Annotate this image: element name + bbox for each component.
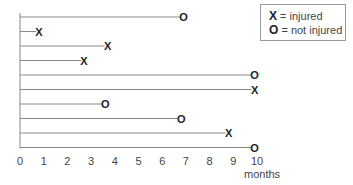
legend-label-injured: = injured [280, 10, 323, 22]
x-tick-label: 8 [207, 155, 213, 167]
timeline-row: O [20, 142, 259, 154]
x-axis-label: months [244, 168, 281, 180]
o-marker-icon: O [179, 11, 188, 23]
timeline-row: X [20, 55, 88, 67]
timeline-row: X [20, 26, 43, 38]
timeline-rows: OXXXOXOOXO [20, 11, 259, 154]
x-marker-icon: X [35, 26, 43, 38]
o-marker-icon: O [250, 69, 259, 81]
x-tick-label: 2 [64, 155, 70, 167]
legend-item-injured: X = injured [269, 9, 345, 23]
timeline-row: X [20, 40, 112, 52]
legend-label-not-injured: = not injured [281, 24, 342, 36]
timeline-row: O [20, 113, 186, 125]
legend: X = injured O = not injured [260, 4, 346, 41]
x-tick-label: 5 [135, 155, 141, 167]
x-tick-label: 3 [88, 155, 94, 167]
x-tick-label: 4 [112, 155, 118, 167]
timeline-row: O [20, 98, 110, 110]
timeline-row: O [20, 11, 188, 23]
x-tick-label: 9 [230, 155, 236, 167]
o-marker-icon: O [269, 23, 278, 37]
o-marker-icon: O [177, 113, 186, 125]
x-tick-label: 0 [17, 155, 23, 167]
x-axis-ticks: 012345678910 [17, 155, 263, 167]
x-tick-label: 1 [41, 155, 47, 167]
x-tick-label: 10 [251, 155, 263, 167]
x-marker-icon: X [225, 127, 233, 139]
o-marker-icon: O [250, 142, 259, 154]
timeline-row: X [20, 84, 259, 96]
x-marker-icon: X [80, 55, 88, 67]
x-marker-icon: X [251, 84, 259, 96]
x-marker-icon: X [104, 40, 112, 52]
legend-item-not-injured: O = not injured [269, 23, 345, 37]
timeline-row: X [20, 127, 233, 139]
timeline-row: O [20, 69, 259, 81]
x-tick-label: 7 [183, 155, 189, 167]
x-tick-label: 6 [159, 155, 165, 167]
x-marker-icon: X [269, 9, 277, 23]
o-marker-icon: O [101, 98, 110, 110]
